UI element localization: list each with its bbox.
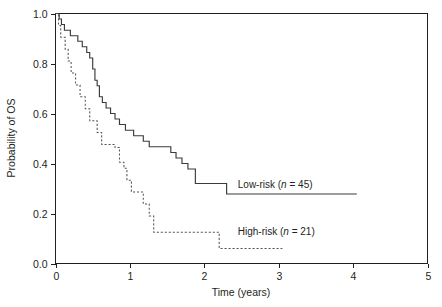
x-axis-title: Time (years) [212,286,271,298]
y-tick-label-0.8: 0.8 [33,58,48,70]
survival-curve-high-risk [56,14,283,249]
x-tick-label-3: 3 [277,270,283,282]
x-axis-tick-labels: 012345 [54,270,432,282]
y-axis-title: Probability of OS [5,99,17,178]
series-annotations-group: Low-risk (n = 45)High-risk (n = 21) [238,179,315,238]
x-tick-label-4: 4 [351,270,357,282]
x-tick-label-1: 1 [128,270,134,282]
x-tick-label-0: 0 [54,270,60,282]
x-tick-label-5: 5 [426,270,432,282]
x-tick-label-2: 2 [202,270,208,282]
y-axis-tick-labels: 0.00.20.40.60.81.0 [33,8,48,270]
y-tick-label-0.6: 0.6 [33,108,48,120]
x-axis-ticks [57,264,429,269]
survival-curve-low-risk [56,14,357,195]
y-tick-label-0.2: 0.2 [33,208,48,220]
y-tick-label-0.4: 0.4 [33,158,48,170]
kaplan-meier-figure: 012345 0.00.20.40.60.81.0 Low-risk (n = … [0,0,442,307]
y-tick-label-1.0: 1.0 [33,8,48,20]
survival-curves-group [56,14,357,249]
series-label-low-risk: Low-risk (n = 45) [238,179,313,190]
survival-curve-chart: 012345 0.00.20.40.60.81.0 Low-risk (n = … [0,0,442,307]
y-tick-label-0.0: 0.0 [33,258,48,270]
series-label-high-risk: High-risk (n = 21) [238,226,315,237]
y-axis-ticks [51,15,56,265]
